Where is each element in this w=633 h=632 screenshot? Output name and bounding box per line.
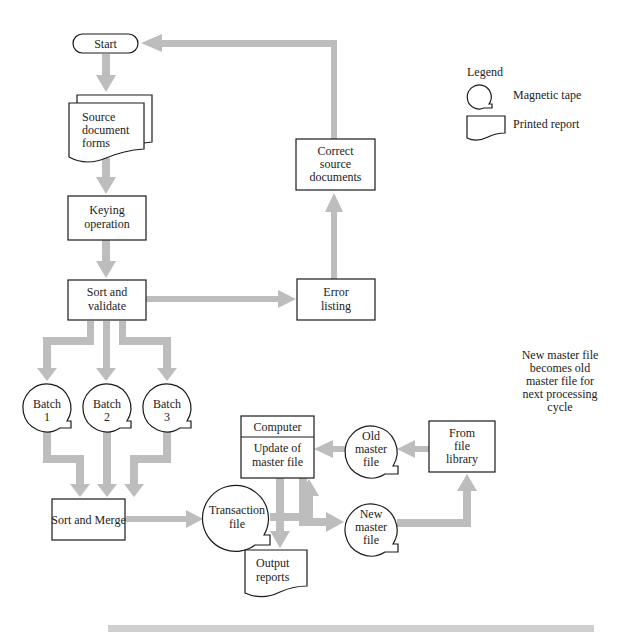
legend-printed-report-label: Printed report	[513, 117, 580, 131]
legend-title: Legend	[467, 65, 503, 79]
computer-label-2: master file	[252, 455, 303, 469]
library-label-2: file	[454, 439, 470, 453]
annotation-line-3: master file for	[526, 374, 594, 388]
old-master-label-1: Old	[362, 429, 380, 443]
node-output-reports: Output reports	[245, 550, 307, 597]
library-label-1: From	[449, 426, 476, 440]
legend-magnetic-tape-label: Magnetic tape	[513, 88, 581, 102]
output-reports-label-1: Output	[256, 556, 290, 570]
node-file-library: From file library	[429, 421, 495, 472]
output-reports-label-2: reports	[256, 570, 290, 584]
legend: Legend Magnetic tape Printed report	[467, 65, 581, 140]
node-old-master-file: Old master file	[345, 426, 398, 478]
bottom-divider-bar	[108, 625, 594, 632]
computer-label-1: Update of	[254, 441, 302, 455]
library-label-3: library	[446, 452, 478, 466]
magnetic-tape-icon	[467, 85, 492, 109]
cycle-annotation: New master file becomes old master file …	[522, 348, 599, 414]
new-master-label-1: New	[360, 507, 383, 521]
annotation-line-1: New master file	[522, 348, 599, 362]
annotation-line-4: next processing	[523, 387, 598, 401]
node-new-master-file: New master file	[345, 504, 398, 556]
annotation-line-5: cycle	[547, 400, 572, 414]
old-master-label-2: master	[355, 442, 387, 456]
computer-header-label: Computer	[254, 420, 302, 434]
printed-report-icon	[467, 116, 505, 140]
new-master-label-2: master	[355, 520, 387, 534]
old-master-label-3: file	[363, 455, 379, 469]
node-computer-update: Computer Update of master file	[241, 416, 314, 478]
new-master-label-3: file	[363, 533, 379, 547]
flowchart-overlay: Computer Update of master file Old maste…	[0, 0, 633, 632]
annotation-line-2: becomes old	[530, 361, 590, 375]
